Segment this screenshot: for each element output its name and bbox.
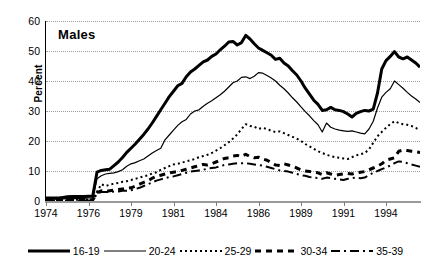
x-tick-label: 1979 bbox=[111, 207, 151, 219]
legend-label: 25-29 bbox=[223, 245, 255, 257]
x-tick-mark bbox=[131, 202, 132, 206]
y-tick-label: 60 bbox=[12, 16, 40, 26]
legend-label: 20-24 bbox=[147, 245, 179, 257]
y-tick-label: 50 bbox=[12, 46, 40, 56]
legend-item-35-39[interactable]: 35-39 bbox=[330, 245, 406, 257]
x-tick-label: 1974 bbox=[26, 207, 66, 219]
series-line-35-39 bbox=[46, 161, 420, 200]
y-tick-label: 20 bbox=[12, 136, 40, 146]
x-tick-mark bbox=[174, 202, 175, 206]
x-tick-mark bbox=[386, 202, 387, 206]
y-tick-label: 40 bbox=[12, 76, 40, 86]
y-axis-ticks: 0102030405060 bbox=[8, 0, 40, 271]
y-tick-label: 30 bbox=[12, 106, 40, 116]
legend-item-16-19[interactable]: 16-19 bbox=[27, 245, 103, 257]
x-tick-label: 1981 bbox=[154, 207, 194, 219]
series-line-20-24 bbox=[46, 73, 420, 200]
legend-item-20-24[interactable]: 20-24 bbox=[103, 245, 179, 257]
x-tick-mark bbox=[89, 202, 90, 206]
x-tick-label: 1976 bbox=[69, 207, 109, 219]
chart-figure: Percent 0102030405060 Males 16-1920-2425… bbox=[0, 0, 433, 271]
x-axis-line bbox=[45, 201, 421, 203]
x-tick-label: 1994 bbox=[366, 207, 406, 219]
legend-label: 16-19 bbox=[71, 245, 103, 257]
x-tick-mark bbox=[216, 202, 217, 206]
series-line-25-29 bbox=[46, 121, 420, 200]
y-tick-label: 10 bbox=[12, 166, 40, 176]
legend-swatch-20-24 bbox=[103, 245, 147, 257]
series-lines bbox=[46, 21, 420, 201]
legend-swatch-35-39 bbox=[330, 245, 374, 257]
x-tick-label: 1991 bbox=[324, 207, 364, 219]
legend-label: 30-34 bbox=[298, 245, 330, 257]
y-tick-label: 0 bbox=[12, 196, 40, 206]
series-line-16-19 bbox=[46, 35, 420, 198]
legend-item-30-34[interactable]: 30-34 bbox=[254, 245, 330, 257]
legend-item-25-29[interactable]: 25-29 bbox=[179, 245, 255, 257]
x-tick-mark bbox=[259, 202, 260, 206]
legend-swatch-16-19 bbox=[27, 245, 71, 257]
legend-swatch-30-34 bbox=[254, 245, 298, 257]
chart-legend: 16-1920-2425-2930-3435-39 bbox=[0, 240, 433, 262]
x-tick-mark bbox=[344, 202, 345, 206]
x-tick-label: 1986 bbox=[239, 207, 279, 219]
x-tick-mark bbox=[46, 202, 47, 206]
x-tick-mark bbox=[301, 202, 302, 206]
x-tick-label: 1984 bbox=[196, 207, 236, 219]
x-tick-label: 1989 bbox=[281, 207, 321, 219]
legend-swatch-25-29 bbox=[179, 245, 223, 257]
legend-label: 35-39 bbox=[374, 245, 406, 257]
